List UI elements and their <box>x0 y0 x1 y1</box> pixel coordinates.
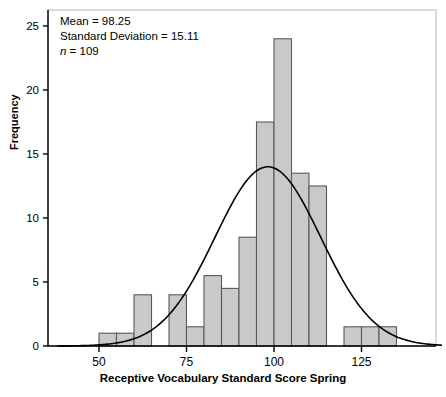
histogram-bar <box>204 276 222 346</box>
x-axis-tick-label: 75 <box>180 355 194 369</box>
histogram-bar <box>344 327 362 346</box>
y-axis-title: Frequency <box>8 134 20 150</box>
x-axis-tick-label: 125 <box>351 355 371 369</box>
y-axis-tick-label: 15 <box>26 148 39 160</box>
histogram-bar <box>274 39 292 346</box>
n-value: = 109 <box>66 45 98 57</box>
histogram-bar <box>169 295 187 346</box>
histogram-bar <box>309 186 327 346</box>
histogram-bars <box>99 39 397 346</box>
y-axis-tick-label: 0 <box>33 340 39 352</box>
x-axis-tick-label: 50 <box>92 355 106 369</box>
histogram-figure: Mean = 98.25 Standard Deviation = 15.11 … <box>0 0 446 397</box>
annotation-standard-deviation: Standard Deviation = 15.11 <box>60 29 199 44</box>
histogram-bar <box>187 327 205 346</box>
y-axis-ticks: 0510152025 <box>26 20 48 352</box>
x-axis-title: Receptive Vocabulary Standard Score Spri… <box>0 372 446 384</box>
histogram-bar <box>362 327 380 346</box>
y-axis-tick-label: 10 <box>26 212 39 224</box>
x-axis-ticks: 5075100125 <box>92 346 372 369</box>
histogram-bar <box>292 173 310 346</box>
annotation-mean: Mean = 98.25 <box>60 14 199 29</box>
y-axis-tick-label: 5 <box>33 276 39 288</box>
plot-canvas: 0510152025 5075100125 <box>0 0 446 397</box>
y-axis-tick-label: 25 <box>26 20 39 32</box>
statistics-annotation: Mean = 98.25 Standard Deviation = 15.11 … <box>60 14 199 59</box>
histogram-bar <box>379 327 397 346</box>
histogram-bar <box>222 288 240 346</box>
annotation-sample-size: n = 109 <box>60 44 199 59</box>
histogram-bar <box>257 122 275 346</box>
x-axis-tick-label: 100 <box>264 355 284 369</box>
y-axis-tick-label: 20 <box>26 84 39 96</box>
histogram-bar <box>239 237 257 346</box>
